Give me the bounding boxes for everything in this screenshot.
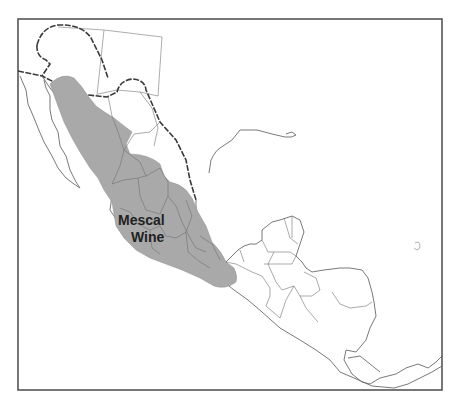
region-label-line-1: Mescal xyxy=(118,212,165,228)
cuba-coast xyxy=(414,242,420,250)
region-label-line-2: Wine xyxy=(131,229,165,245)
map-frame xyxy=(18,19,442,390)
california-coast xyxy=(37,45,50,76)
region-mescal-wine xyxy=(50,76,237,287)
gulf-coast-us xyxy=(209,130,296,173)
central-america-coast xyxy=(344,302,442,384)
map: Mescal Wine xyxy=(0,0,460,408)
yucatan-lines xyxy=(264,216,298,264)
